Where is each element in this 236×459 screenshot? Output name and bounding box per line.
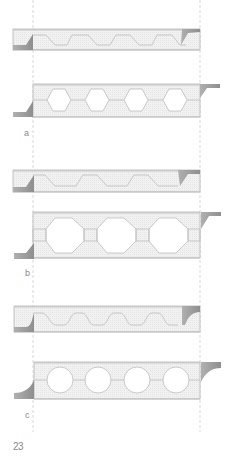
panel-b-bottom-slab bbox=[14, 212, 221, 259]
panel-a-bottom-slab bbox=[13, 84, 220, 118]
panel-a-top-slab bbox=[13, 29, 200, 51]
panel-label-b: b bbox=[25, 268, 30, 278]
panel-label-c: c bbox=[25, 410, 30, 420]
panel-c-top-slab bbox=[14, 306, 200, 333]
panel-c-bottom-slab bbox=[14, 362, 221, 400]
page-number: 23 bbox=[13, 441, 23, 452]
panel-b-top-slab bbox=[13, 170, 200, 193]
panel-label-a: a bbox=[24, 128, 29, 138]
slab-section-diagram bbox=[0, 0, 236, 459]
